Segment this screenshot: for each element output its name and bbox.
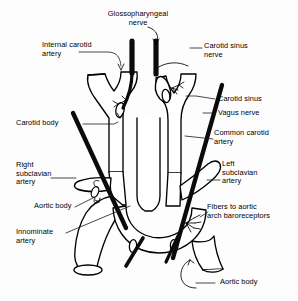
right-common-carotid-descent: [166, 173, 181, 206]
innominate-lumen: [74, 265, 102, 275]
descending-aorta: [192, 236, 223, 270]
leader-carotid-sinus: [186, 96, 215, 99]
subclavian-body-arrow: [95, 198, 100, 202]
diagram-artwork: [0, 0, 298, 301]
anatomical-diagram: Internal carotid artery Glossopharyngeal…: [0, 0, 298, 301]
leader-internal-carotid: [79, 52, 121, 66]
central-vessel: [137, 118, 160, 211]
carotid-sinus-nerve-fiber: [157, 63, 188, 68]
leader-aortic-body-left: [75, 198, 93, 207]
